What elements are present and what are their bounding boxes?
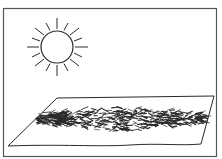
illustration: Line drawing of a sun shining above a sh…: [0, 0, 222, 159]
sun-icon: [27, 18, 88, 76]
